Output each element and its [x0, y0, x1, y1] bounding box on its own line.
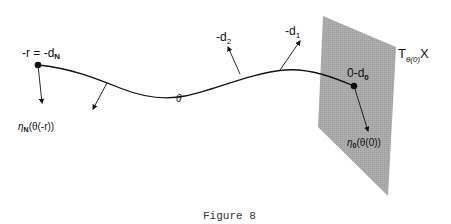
- d2-vector: [228, 47, 240, 74]
- d1-label: -d1: [285, 24, 301, 40]
- tangent-space-diagram: -r = -dN ηN(θ(-r)) θ -d2 -d1 Tθ(0)X 0-d0…: [0, 0, 451, 224]
- tangent-plane: [318, 16, 396, 196]
- eta-n-vector: [38, 65, 42, 103]
- figure-caption: Figure 8: [203, 210, 256, 222]
- normal-vector-2: [93, 83, 107, 109]
- eta-0-label: η0(θ(0)): [347, 137, 381, 149]
- d1-vector: [280, 41, 300, 70]
- curve-theta: [38, 65, 354, 98]
- theta-label: θ: [176, 93, 182, 104]
- left-point-label: -r = -dN: [22, 46, 60, 61]
- d2-label: -d2: [216, 30, 232, 46]
- eta-n-label: ηN(θ(-r)): [18, 121, 54, 133]
- plane-label: Tθ(0)X: [398, 46, 429, 64]
